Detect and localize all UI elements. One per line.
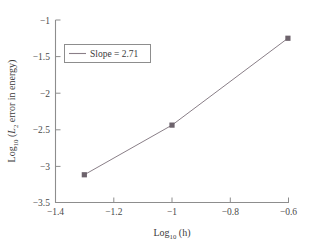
y-tick-label: −3 bbox=[40, 162, 50, 172]
x-tick-label: −1.2 bbox=[105, 207, 122, 217]
x-tick-label: −0.6 bbox=[280, 207, 297, 217]
chart-canvas: −1 −1.5 −2 −2.5 −3 −3.5 −1.4 −1.2 −1 −0.… bbox=[0, 0, 309, 246]
x-tick-marks bbox=[56, 198, 289, 203]
y-tick-label: −1 bbox=[40, 16, 50, 26]
x-axis-title-arg: (h) bbox=[176, 227, 190, 239]
y-tick-label: −1.5 bbox=[33, 52, 50, 62]
x-tick-label: −1.4 bbox=[47, 207, 64, 217]
data-point-marker bbox=[169, 123, 174, 128]
y-axis-title-base: Log bbox=[6, 146, 17, 162]
x-axis-title: Log10 (h) bbox=[153, 227, 190, 240]
legend-label: Slope = 2.71 bbox=[90, 49, 139, 59]
x-tick-label: −0.8 bbox=[222, 207, 239, 217]
y-axis-title: Log10 (L2 error in energy) bbox=[6, 60, 19, 163]
svg-text:Log10 (L2 error in energy): Log10 (L2 error in energy) bbox=[6, 60, 19, 163]
y-axis-title-rest: error in energy) bbox=[6, 60, 18, 125]
y-tick-labels: −1 −1.5 −2 −2.5 −3 −3.5 bbox=[33, 16, 50, 209]
svg-text:Log10 (h): Log10 (h) bbox=[153, 227, 190, 240]
x-tick-label: −1 bbox=[167, 207, 177, 217]
y-tick-label: −2.5 bbox=[33, 125, 50, 135]
y-tick-label: −2 bbox=[40, 89, 50, 99]
y-tick-marks bbox=[56, 20, 61, 203]
legend[interactable]: Slope = 2.71 bbox=[65, 45, 151, 63]
figure-container: −1 −1.5 −2 −2.5 −3 −3.5 −1.4 −1.2 −1 −0.… bbox=[0, 0, 309, 246]
x-axis-title-base: Log bbox=[153, 227, 169, 238]
data-point-marker bbox=[285, 36, 290, 41]
x-tick-labels: −1.4 −1.2 −1 −0.8 −0.6 bbox=[47, 207, 297, 217]
data-point-marker bbox=[82, 172, 87, 177]
